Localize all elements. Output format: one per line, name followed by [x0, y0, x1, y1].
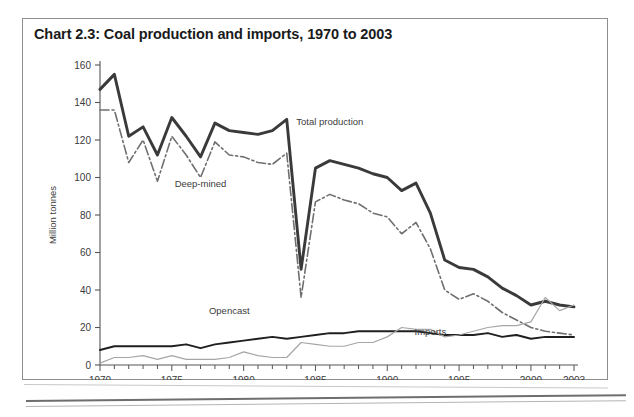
x-axis-tick-label: 1995: [448, 375, 471, 380]
y-axis-tick-label: 60: [80, 247, 92, 258]
annotation-deep-mined: Deep-mined: [175, 178, 227, 189]
annotation-imports: Imports: [415, 326, 447, 337]
coal-production-line-chart: 020406080100120140160 197019751980198519…: [22, 18, 608, 380]
y-axis-tick-label: 0: [85, 360, 91, 371]
series-line-deep-mined: [100, 110, 574, 335]
x-axis-tick-label: 1980: [233, 375, 256, 380]
y-axis-tick-label: 80: [80, 210, 92, 221]
x-axis-tick-label: 2003: [563, 375, 586, 380]
annotation-total-production: Total production: [296, 116, 363, 127]
x-axis-tick-label: 1970: [89, 375, 112, 380]
y-axis-title: Million tonnes: [47, 186, 58, 244]
y-axis-tick-label: 40: [80, 285, 92, 296]
y-axis-tick-label: 100: [74, 172, 91, 183]
x-axis-tick-label: 1975: [161, 375, 184, 380]
series-annotations: Total productionDeep-minedOpencastImport…: [175, 116, 447, 337]
x-axis: 19701975198019851990199520002003: [89, 365, 586, 380]
x-axis-tick-label: 2000: [520, 375, 543, 380]
scan-edge-line: [24, 384, 608, 389]
scan-horizontal-rule-secondary: [26, 400, 626, 407]
series-line-opencast: [100, 331, 574, 350]
x-axis-tick-label: 1985: [304, 375, 327, 380]
y-axis: 020406080100120140160: [74, 60, 100, 371]
y-axis-tick-label: 120: [74, 135, 91, 146]
y-axis-tick-label: 140: [74, 97, 91, 108]
chart-plot-area: 020406080100120140160 197019751980198519…: [22, 18, 608, 380]
y-axis-tick-label: 160: [74, 60, 91, 71]
series-line-imports: [100, 298, 574, 364]
y-axis-title-label: Million tonnes: [47, 186, 58, 244]
series-line-total-production: [100, 74, 574, 307]
y-axis-tick-label: 20: [80, 322, 92, 333]
annotation-opencast: Opencast: [209, 305, 250, 316]
x-axis-tick-label: 1990: [376, 375, 399, 380]
